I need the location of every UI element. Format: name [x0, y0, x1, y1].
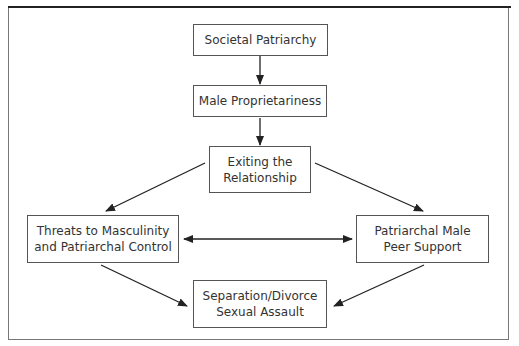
node-label: Male Proprietariness — [199, 93, 321, 109]
node-label-line2: Peer Support — [384, 239, 462, 255]
node-label-line2: and Patriarchal Control — [34, 239, 172, 255]
node-peer-support: Patriarchal Male Peer Support — [356, 215, 489, 263]
arrow-peer-to-separation — [334, 265, 424, 306]
node-separation-divorce: Separation/Divorce Sexual Assault — [193, 280, 327, 328]
node-male-proprietariness: Male Proprietariness — [193, 85, 327, 117]
node-label-line1: Patriarchal Male — [374, 223, 470, 239]
node-label-line1: Exiting the — [228, 154, 293, 170]
node-label-line1: Threats to Masculinity — [37, 223, 170, 239]
arrow-exiting-to-peer — [315, 163, 423, 211]
node-label-line2: Relationship — [223, 170, 297, 186]
node-threats-masculinity: Threats to Masculinity and Patriarchal C… — [27, 215, 179, 263]
node-exiting-relationship: Exiting the Relationship — [209, 146, 311, 193]
arrow-exiting-to-threats — [106, 163, 205, 211]
node-label-line2: Sexual Assault — [216, 304, 304, 320]
node-label: Societal Patriarchy — [205, 32, 317, 48]
node-label-line1: Separation/Divorce — [203, 288, 318, 304]
node-societal-patriarchy: Societal Patriarchy — [193, 24, 328, 56]
arrow-threats-to-separation — [101, 265, 187, 306]
